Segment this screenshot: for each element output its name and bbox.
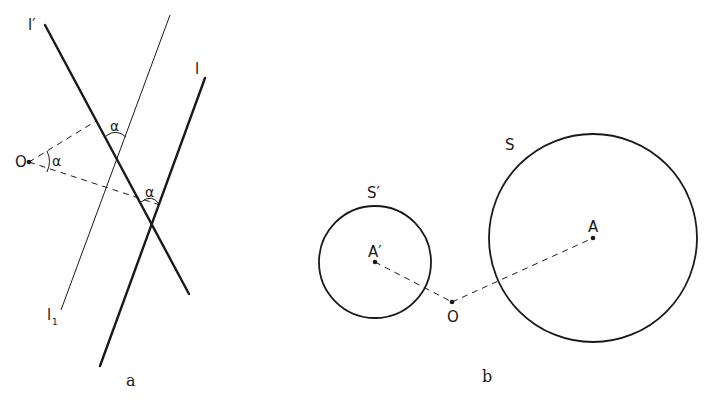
label-l1: l xyxy=(47,306,51,324)
caption-a: a xyxy=(126,371,136,390)
panel-a: l′ l l 1 O α α α a xyxy=(15,15,205,390)
angle-arc-o xyxy=(47,151,50,172)
point-a xyxy=(591,236,596,241)
caption-b: b xyxy=(482,367,492,386)
label-l: l xyxy=(195,60,199,78)
label-s-prime: S′ xyxy=(367,184,381,202)
point-o xyxy=(27,160,32,165)
label-l-prime: l′ xyxy=(28,16,36,34)
label-angle-o: α xyxy=(52,153,61,169)
label-o: O xyxy=(15,153,27,171)
panel-b: S′ S A′ A O b xyxy=(319,134,697,386)
ray-to-l-prime xyxy=(29,121,96,162)
line-l1 xyxy=(61,15,170,310)
label-s: S xyxy=(505,136,515,154)
point-o-b xyxy=(450,300,455,305)
label-angle-top: α xyxy=(110,118,119,134)
label-a-prime: A′ xyxy=(368,243,382,261)
label-a: A xyxy=(588,218,599,236)
label-angle-bottom: α xyxy=(145,184,154,200)
segment-o-a xyxy=(452,238,593,302)
label-l1-subscript: 1 xyxy=(52,317,58,327)
rotation-diagram: l′ l l 1 O α α α a S′ S A′ A O b xyxy=(0,0,706,401)
segment-a-prime-o xyxy=(375,262,452,302)
label-o-b: O xyxy=(447,308,459,326)
